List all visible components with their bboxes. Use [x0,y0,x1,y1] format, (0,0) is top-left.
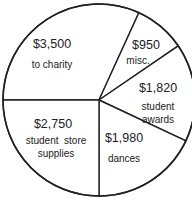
slice-amount-label: $3,500 [33,37,71,51]
pie-chart: $3,500to charity$950misc.$1,820studentaw… [0,0,192,200]
slice-description-label: awards [142,114,174,125]
pie-slices [3,4,192,196]
slice-amount-label: $2,750 [34,117,72,131]
slice-amount-label: $1,980 [105,131,143,145]
slice-description-label: supplies [38,148,75,159]
slice-description-label: student store [26,135,87,146]
slice-description-label: dances [108,153,140,164]
slice-description-label: to charity [32,59,73,70]
slice-amount-label: $950 [132,38,160,52]
slice-amount-label: $1,820 [139,81,177,95]
slice-description-label: student [142,101,175,112]
slice-description-label: misc. [126,55,149,66]
